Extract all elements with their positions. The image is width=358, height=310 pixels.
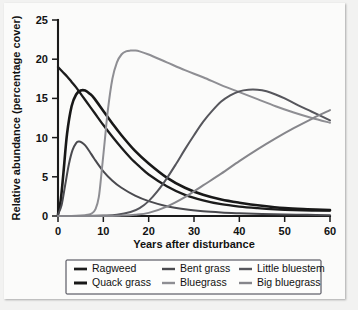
legend-label: Big bluegrass bbox=[257, 276, 321, 288]
x-axis-title: Years after disturbance bbox=[133, 238, 255, 250]
series-group bbox=[58, 50, 330, 216]
legend-label: Bent grass bbox=[180, 262, 230, 274]
legend-label: Bluegrass bbox=[180, 276, 227, 288]
legend-label: Quack grass bbox=[92, 276, 151, 288]
y-axis-title: Relative abundance (percentage cover) bbox=[10, 15, 22, 220]
x-tick-label: 30 bbox=[188, 225, 200, 237]
legend-label: Ragweed bbox=[92, 262, 137, 274]
chart-canvas: 0510152025 Relative abundance (percentag… bbox=[4, 3, 345, 299]
y-tick-label: 0 bbox=[42, 210, 48, 222]
series-line-ragweed bbox=[58, 67, 330, 211]
y-tick-label: 10 bbox=[36, 132, 48, 144]
y-tick-label: 25 bbox=[36, 14, 48, 26]
x-tick-label: 0 bbox=[55, 225, 61, 237]
x-axis-group: 0102030405060 Years after disturbance bbox=[55, 216, 336, 250]
y-tick-group: 0510152025 bbox=[36, 14, 58, 222]
y-tick-label: 5 bbox=[42, 171, 48, 183]
legend: RagweedBent grassLittle bluestemQuack gr… bbox=[66, 260, 325, 294]
legend-label: Little bluestem bbox=[257, 262, 325, 274]
x-tick-label: 10 bbox=[97, 225, 109, 237]
x-tick-label: 20 bbox=[143, 225, 155, 237]
x-tick-label: 40 bbox=[233, 225, 245, 237]
x-tick-label: 50 bbox=[279, 225, 291, 237]
y-tick-label: 15 bbox=[36, 92, 48, 104]
series-line-bent-grass bbox=[58, 141, 330, 215]
x-tick-group: 0102030405060 bbox=[55, 216, 336, 237]
figure-root: 0510152025 Relative abundance (percentag… bbox=[0, 0, 358, 310]
y-tick-label: 20 bbox=[36, 53, 48, 65]
x-tick-label: 60 bbox=[324, 225, 336, 237]
y-axis-group: 0510152025 Relative abundance (percentag… bbox=[10, 14, 58, 222]
figure-card: 0510152025 Relative abundance (percentag… bbox=[4, 3, 345, 299]
